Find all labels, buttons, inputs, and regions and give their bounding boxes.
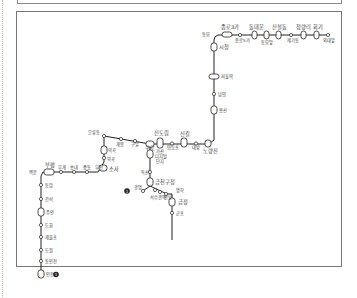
svg-text:단지: 단지 xyxy=(156,158,164,165)
svg-text:청량리 회기: 청량리 회기 xyxy=(296,23,323,31)
svg-text:개봉: 개봉 xyxy=(116,141,124,148)
svg-text:동묘: 동묘 xyxy=(202,32,210,37)
svg-text:외대앞: 외대앞 xyxy=(323,37,335,44)
svg-text:석수: 석수 xyxy=(150,194,158,201)
svg-text:1: 1 xyxy=(55,272,58,277)
svg-text:신설동: 신설동 xyxy=(272,23,287,30)
svg-text:서울역: 서울역 xyxy=(221,73,233,80)
svg-text:제물포: 제물포 xyxy=(45,234,57,241)
svg-text:동대문: 동대문 xyxy=(249,23,264,31)
svg-text:노량진: 노량진 xyxy=(203,148,218,154)
svg-text:송내: 송내 xyxy=(70,164,78,171)
svg-text:주안: 주안 xyxy=(46,209,54,216)
svg-text:금정: 금정 xyxy=(178,199,188,205)
svg-text:동묘앞: 동묘앞 xyxy=(261,39,273,45)
svg-text:광명: 광명 xyxy=(134,184,142,190)
subway-map: 동묘 종로3가 종로5가 동대문 동묘앞 신설동 제기동 청량리 회기 외대앞 … xyxy=(0,0,357,298)
svg-text:부개: 부개 xyxy=(58,164,66,171)
svg-text:도원: 도원 xyxy=(45,247,53,253)
svg-text:부천: 부천 xyxy=(95,164,103,171)
terminus-marker-incheon: 1 xyxy=(53,272,59,278)
svg-text:제기동: 제기동 xyxy=(287,37,299,44)
svg-text:1: 1 xyxy=(126,189,129,194)
svg-text:중동: 중동 xyxy=(83,165,91,170)
svg-text:남영: 남영 xyxy=(218,91,226,97)
svg-text:백운: 백운 xyxy=(29,169,37,176)
svg-text:역곡: 역곡 xyxy=(108,147,116,154)
station-labels-south: 가산 디지털 단지 독산 금천구청 광명 석수 관악 안양 명학 금정 군포 xyxy=(134,148,188,216)
svg-text:종로3가: 종로3가 xyxy=(221,23,239,31)
svg-text:신길: 신길 xyxy=(180,130,190,137)
svg-text:시청: 시청 xyxy=(219,44,229,50)
svg-text:역곡: 역곡 xyxy=(107,156,115,163)
svg-text:군포: 군포 xyxy=(176,211,184,216)
svg-text:간석: 간석 xyxy=(45,196,53,203)
terminus-marker-gwangmyeong: 1 xyxy=(124,188,130,194)
svg-text:신도림: 신도림 xyxy=(154,129,169,136)
svg-text:독산: 독산 xyxy=(141,169,149,176)
svg-text:금천구청: 금천구청 xyxy=(155,179,175,186)
svg-text:종로5가: 종로5가 xyxy=(235,37,250,44)
svg-text:부평: 부평 xyxy=(45,162,55,169)
svg-text:동암: 동암 xyxy=(45,182,53,188)
station-labels-vertical: 시청 서울역 남영 용산 노량진 xyxy=(203,44,233,154)
line-path xyxy=(41,35,330,275)
svg-text:용산: 용산 xyxy=(219,107,227,113)
svg-text:명학: 명학 xyxy=(176,187,184,194)
svg-text:도화: 도화 xyxy=(45,223,53,229)
svg-text:대방: 대방 xyxy=(192,144,200,151)
svg-text:동인천: 동인천 xyxy=(45,258,57,264)
svg-text:안양: 안양 xyxy=(164,194,172,200)
svg-text:인천: 인천 xyxy=(46,271,54,277)
svg-text:구일: 구일 xyxy=(131,141,139,148)
svg-text:소사: 소사 xyxy=(109,165,119,173)
station-markers-vertical xyxy=(205,43,219,147)
svg-text:영등포: 영등포 xyxy=(167,144,179,150)
svg-text:오류동: 오류동 xyxy=(88,130,100,136)
